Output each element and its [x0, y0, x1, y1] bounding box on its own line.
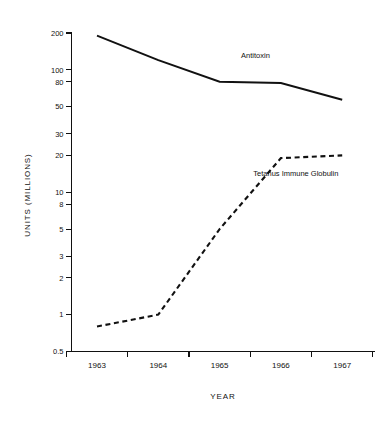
- y-tick-group: [66, 33, 72, 352]
- series-line-tetanus-immune-globulin: [97, 155, 342, 326]
- series-line-antitoxin: [97, 36, 342, 100]
- x-tick-label: 1963: [88, 361, 106, 370]
- y-tick-label: 200: [51, 29, 64, 38]
- y-tick-label: 30: [55, 130, 63, 139]
- y-tick-label-group: 0.5123581020305080100200: [51, 29, 64, 357]
- y-axis-title: UNITS (MILLIONS): [23, 153, 32, 236]
- y-tick-label: 5: [59, 225, 63, 234]
- y-tick-label: 0.5: [53, 347, 63, 356]
- x-tick-label: 1964: [149, 361, 167, 370]
- y-tick-label: 80: [55, 78, 63, 87]
- series-annotation-group: AntitoxinTetanus Immune Globulin: [241, 51, 338, 178]
- y-tick-label: 1: [59, 310, 63, 319]
- series-group: [97, 36, 342, 327]
- series-annotation: Tetanus Immune Globulin: [253, 169, 338, 178]
- x-tick-group: [66, 352, 373, 358]
- y-tick-label: 2: [59, 274, 63, 283]
- series-annotation: Antitoxin: [241, 51, 270, 60]
- chart-container: 0.5123581020305080100200 196319641965196…: [0, 0, 392, 421]
- x-tick-label: 1967: [333, 361, 351, 370]
- y-tick-label: 8: [59, 200, 63, 209]
- x-tick-label: 1965: [211, 361, 229, 370]
- x-tick-label: 1966: [272, 361, 290, 370]
- line-chart: 0.5123581020305080100200 196319641965196…: [0, 0, 392, 421]
- y-axis: 0.5123581020305080100200: [51, 29, 72, 357]
- y-tick-label: 3: [59, 252, 63, 261]
- y-tick-label: 20: [55, 151, 63, 160]
- y-tick-label: 100: [51, 66, 64, 75]
- x-axis-title: YEAR: [210, 392, 235, 401]
- x-axis: 19631964196519661967: [66, 352, 375, 370]
- x-tick-label-group: 19631964196519661967: [88, 361, 352, 370]
- y-tick-label: 10: [55, 188, 63, 197]
- y-tick-label: 50: [55, 102, 63, 111]
